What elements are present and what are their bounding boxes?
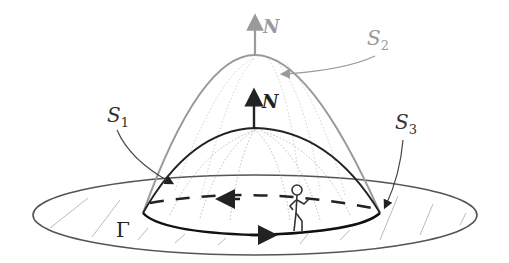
label-normal-inner: N — [261, 91, 280, 112]
stick-figure — [290, 185, 309, 231]
leader-s1 — [117, 130, 170, 182]
label-s2: S2 — [367, 26, 389, 53]
label-s3: S3 — [395, 110, 417, 137]
leader-s3 — [386, 140, 403, 205]
label-gamma: Γ — [116, 218, 130, 242]
stokes-diagram: N N S1 S2 S3 Γ — [0, 0, 509, 263]
leader-s2 — [285, 56, 375, 74]
surface-s2 — [143, 55, 380, 213]
boundary-gamma — [143, 195, 380, 235]
surface-s3 — [33, 175, 477, 255]
label-normal-outer: N — [262, 16, 281, 37]
label-s1: S1 — [107, 103, 129, 130]
